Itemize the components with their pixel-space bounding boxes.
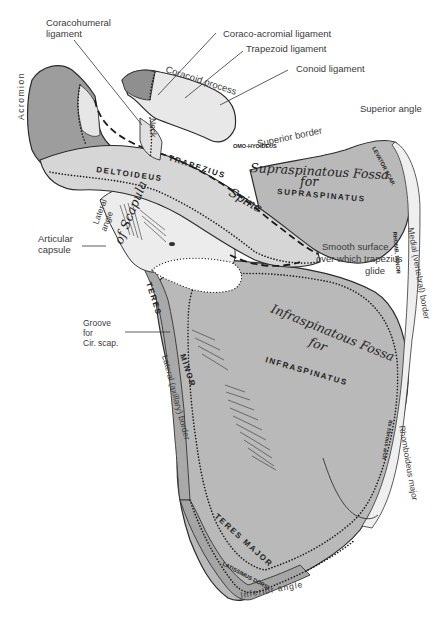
label-groove: Groove <box>83 318 111 328</box>
label-smooth-surface: Smooth surface <box>322 241 389 252</box>
label-coracohumeral-ligament-2: ligament <box>46 28 82 39</box>
label-conoid-ligament: Conoid ligament <box>296 63 365 74</box>
scapula-diagram: Coracohumeral ligament Coraco-acromial l… <box>0 0 435 625</box>
label-rhomboideus-major: Rhomboideus major <box>397 425 420 502</box>
label-articular-capsule-2: capsule <box>38 244 71 255</box>
label-coracohumeral-ligament: Coracohumeral <box>46 17 111 28</box>
label-articular-capsule: Articular <box>38 233 73 244</box>
label-superior-angle: Superior angle <box>360 103 422 114</box>
coracoid-tip <box>122 70 155 100</box>
label-smooth-surface-3: glide <box>365 265 385 276</box>
label-omo-hyoideus: OMO-HYOIDEUS <box>233 143 277 149</box>
label-smooth-surface-2: over which trapezius <box>316 253 403 264</box>
nutrient-foramen <box>169 242 175 246</box>
scapula-illustration: Coracohumeral ligament Coraco-acromial l… <box>0 0 435 625</box>
label-coraco-acromial-ligament: Coraco-acromial ligament <box>223 28 332 39</box>
label-groove-2: for <box>83 328 93 338</box>
label-supra-for: for <box>299 174 319 189</box>
label-trapezoid-ligament: Trapezoid ligament <box>246 43 327 54</box>
label-neck: Neck <box>148 118 158 138</box>
label-groove-3: Cir. scap. <box>83 338 118 348</box>
label-acromion: Acromion <box>16 72 26 120</box>
